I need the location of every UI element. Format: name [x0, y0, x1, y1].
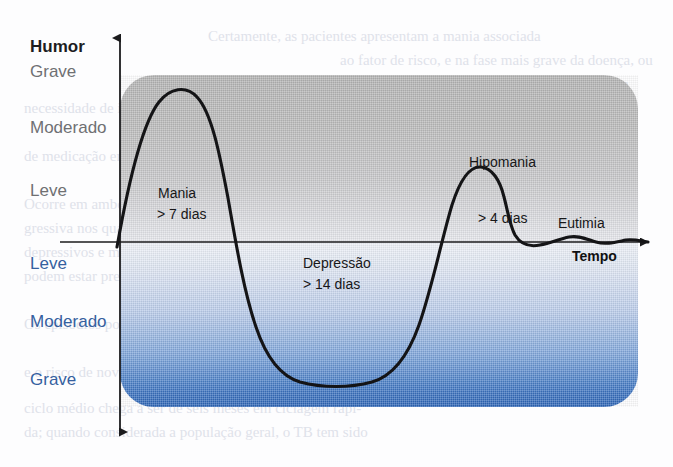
mood-chart-figure: Certamente, as pacientes apresentam a ma…: [0, 0, 673, 467]
y-axis-label-grave-upper: Grave: [30, 63, 76, 81]
y-axis-label-leve-upper: Leve: [30, 182, 67, 200]
annotation-depressao-label: Depressão: [303, 256, 371, 271]
annotation-depressao-duration: > 14 dias: [303, 277, 360, 292]
chart-vector-overlay: [0, 0, 673, 467]
annotation-hipomania-duration: > 4 dias: [478, 211, 527, 226]
y-axis-label-moderado-lower: Moderado: [30, 313, 107, 331]
annotation-mania-label: Mania: [158, 186, 196, 201]
annotation-hipomania-label: Hipomania: [469, 155, 536, 170]
y-axis-label-leve-lower: Leve: [30, 255, 67, 273]
annotation-eutimia-label: Eutimia: [558, 216, 605, 231]
y-axis-title: Humor: [30, 38, 85, 56]
mood-curve: [117, 90, 648, 387]
y-axis-label-moderado-upper: Moderado: [30, 119, 107, 137]
annotation-mania-duration: > 7 dias: [157, 207, 206, 222]
x-axis-title: Tempo: [572, 249, 617, 264]
y-axis-label-grave-lower: Grave: [30, 371, 76, 389]
